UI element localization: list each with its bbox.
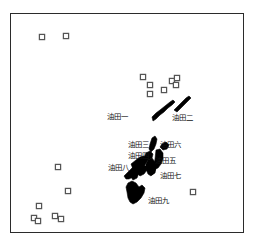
oil-field-label-youtian-6: 油田六 [160,141,182,149]
oil-field-label-youtian-8: 油田八 [108,164,130,172]
oil-field-label-youtian-5: 油田五 [155,157,177,165]
site-marker-marker-8[interactable] [174,75,181,82]
site-marker-marker-2[interactable] [63,33,70,40]
site-marker-marker-4[interactable] [147,82,154,89]
site-marker-marker-17[interactable] [35,218,42,225]
site-marker-marker-12[interactable] [190,189,197,196]
oil-field-label-youtian-7: 油田七 [160,172,182,180]
map-frame-border [10,13,244,233]
site-marker-marker-13[interactable] [36,203,43,210]
oil-field-map-figure: 油田一油田二油田三油田四油田五油田六油田七油田八油田九 [0,0,254,242]
oil-field-label-youtian-3: 油田三 [128,141,150,149]
site-marker-marker-15[interactable] [58,216,65,223]
site-marker-marker-10[interactable] [55,164,62,171]
oil-field-label-youtian-4: 油田四 [128,152,150,160]
oil-field-label-youtian-1: 油田一 [107,113,129,121]
site-marker-marker-11[interactable] [65,188,72,195]
site-marker-marker-5[interactable] [147,91,154,98]
oil-field-label-youtian-9: 油田九 [148,197,170,205]
site-marker-marker-9[interactable] [173,82,180,89]
site-marker-marker-6[interactable] [161,87,168,94]
oil-field-label-youtian-2: 油田二 [172,114,194,122]
site-marker-marker-1[interactable] [39,34,46,41]
site-marker-marker-3[interactable] [140,74,147,81]
